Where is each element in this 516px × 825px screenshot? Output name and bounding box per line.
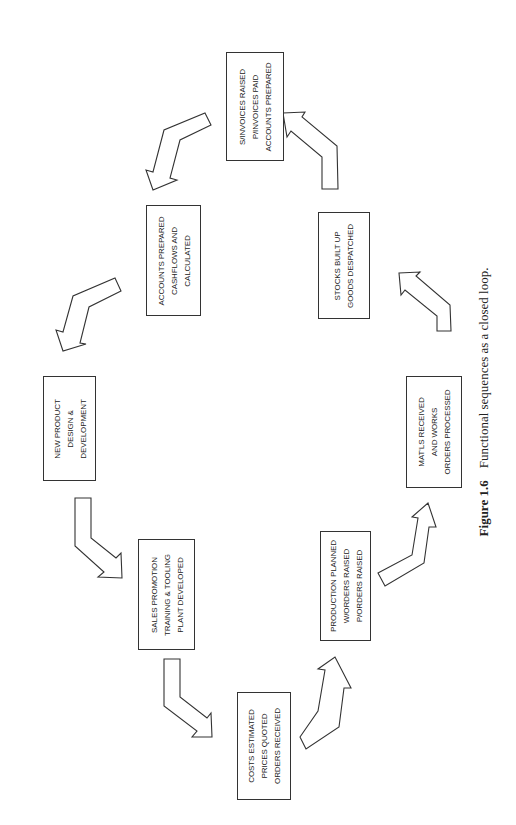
box-costs: COSTS ESTIMATED PRICES QUOTED ORDERS REC… [237, 692, 291, 800]
box-sales-text: SALES PROMOTION TRAINING & TOOLING PLANT… [147, 554, 186, 636]
figure-caption-text: Functional sequences as a closed loop. [476, 268, 491, 469]
figure-label: Figure 1.6 [476, 480, 491, 536]
box-materials: MAT'LS RECEIVED AND WORKS ORDERS PROCESS… [406, 376, 462, 488]
arrow-materials-to-stocks [399, 272, 451, 331]
figure-caption: Figure 1.6Functional sequences as a clos… [476, 268, 492, 537]
box-sales: SALES PROMOTION TRAINING & TOOLING PLANT… [138, 539, 195, 650]
box-materials-text: MAT'LS RECEIVED AND WORKS ORDERS PROCESS… [415, 389, 454, 474]
arrow-stocks-to-invoices [283, 112, 338, 189]
box-production: PRODUCTION PLANNED W/ORDERS RAISED P/ORD… [320, 531, 371, 641]
box-costs-text: COSTS ESTIMATED PRICES QUOTED ORDERS REC… [245, 708, 284, 784]
box-production-text: PRODUCTION PLANNED W/ORDERS RAISED P/ORD… [326, 540, 365, 632]
arrow-sales-to-costs [164, 659, 212, 737]
box-stocks-text: STOCKS BUILT UP GOODS DESPATCHED [331, 224, 357, 308]
arrow-accounts-to-new-product [56, 278, 121, 351]
box-accounts: ACCOUNTS PREPARED CASHFLOWS AND CALCULAT… [146, 205, 201, 316]
box-new-product: NEW PRODUCT DESIGN & DEVELOPMENT [43, 376, 96, 481]
box-invoices-text: S/INVOICES RAISED P/INVOICES PAID ACCOUN… [236, 62, 275, 151]
box-invoices: S/INVOICES RAISED P/INVOICES PAID ACCOUN… [226, 52, 284, 161]
arrow-costs-to-production [300, 657, 351, 749]
arrow-new-product-to-sales [75, 498, 122, 578]
box-new-product-text: NEW PRODUCT DESIGN & DEVELOPMENT [50, 399, 89, 458]
arrow-invoices-to-accounts [146, 113, 211, 190]
box-stocks: STOCKS BUILT UP GOODS DESPATCHED [318, 212, 370, 319]
arrow-production-to-materials [378, 503, 436, 586]
box-accounts-text: ACCOUNTS PREPARED CASHFLOWS AND CALCULAT… [154, 216, 193, 305]
